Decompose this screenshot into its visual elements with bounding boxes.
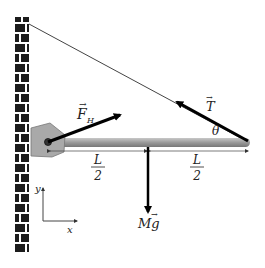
beam <box>55 138 250 147</box>
svg-text:→: → <box>151 210 158 219</box>
coordinate-axes: y x <box>34 183 77 235</box>
brick-wall <box>15 17 29 257</box>
svg-text:2: 2 <box>192 169 201 183</box>
svg-text:L: L <box>93 153 102 167</box>
svg-text:H: H <box>86 116 95 125</box>
tension-label: T → <box>206 93 216 114</box>
half-length-label-left: L 2 <box>91 153 105 183</box>
half-length-label-right: L 2 <box>190 153 204 183</box>
weight-label: Mg → <box>137 210 160 231</box>
beam-diagram: F H → T → θ Mg → L 2 L 2 y x <box>0 0 265 268</box>
hinge-bracket <box>31 123 65 157</box>
svg-text:→: → <box>206 93 213 102</box>
svg-text:x: x <box>67 224 73 235</box>
svg-text:→: → <box>79 99 87 109</box>
svg-text:2: 2 <box>93 169 102 183</box>
svg-text:L: L <box>192 153 201 167</box>
hinge-force-label: F H → <box>76 99 95 125</box>
angle-label: θ <box>212 124 220 138</box>
svg-text:y: y <box>34 183 41 194</box>
